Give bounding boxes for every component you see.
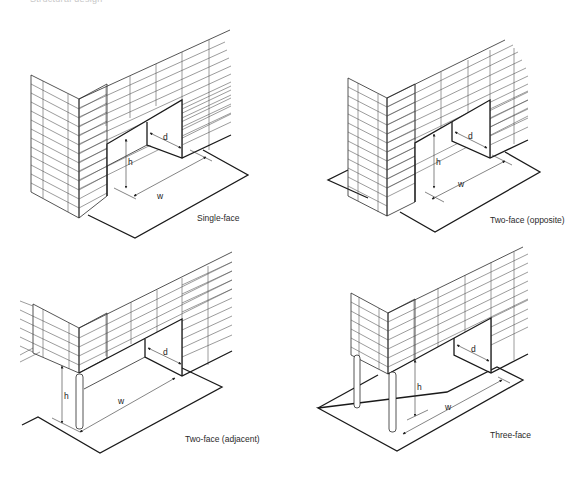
dim-h: h [128, 157, 133, 167]
dim-w: w [156, 191, 164, 201]
dim-h: h [417, 382, 422, 392]
upper-wall [351, 247, 528, 392]
dim-d: d [163, 132, 168, 142]
dim-w: w [117, 396, 125, 406]
panel-three-face: h d w Three-face [318, 247, 531, 451]
column [76, 374, 83, 429]
long-wall [79, 30, 231, 196]
dim-d: d [471, 344, 476, 354]
left-wall [348, 78, 415, 216]
dim-h: h [436, 157, 441, 167]
dim-w: w [444, 402, 452, 412]
caption-three-face: Three-face [490, 430, 531, 440]
column-front [389, 372, 396, 432]
caption-two-face-adjacent: Two-face (adjacent) [185, 434, 260, 444]
exposure-diagram: h d w Single-face [0, 0, 583, 486]
panel-two-face-opposite: h d w Two-face (opposite) [328, 40, 565, 232]
dim-d: d [468, 131, 473, 141]
column-back [354, 355, 360, 408]
panel-two-face-adjacent: h d w Two-face (adjacent) [20, 252, 260, 453]
dim-h: h [64, 391, 69, 401]
caption-two-face-opposite: Two-face (opposite) [490, 215, 565, 225]
dim-w: w [457, 179, 465, 189]
dim-d: d [163, 347, 168, 357]
upper-wall [20, 252, 232, 395]
caption-single-face: Single-face [197, 213, 240, 223]
left-wall [31, 75, 107, 218]
panel-single-face: h d w Single-face [31, 30, 248, 238]
